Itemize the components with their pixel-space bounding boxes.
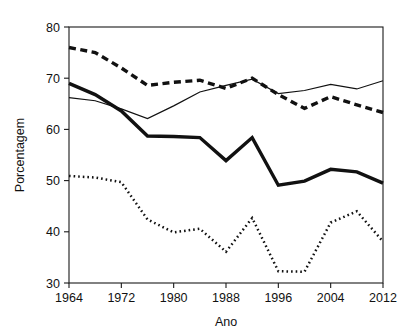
- chart-container: 304050607080 196419721980198819962004201…: [0, 0, 409, 331]
- series-dotted: [69, 176, 383, 272]
- y-tick-label: 50: [46, 174, 60, 188]
- series-thick-dashed: [69, 47, 383, 112]
- x-tick-label: 1980: [160, 291, 188, 305]
- y-tick-label: 60: [46, 123, 60, 137]
- x-tick-label: 2004: [317, 291, 345, 305]
- x-tick-label: 1988: [212, 291, 240, 305]
- line-chart: 304050607080 196419721980198819962004201…: [0, 0, 409, 331]
- series-group: [69, 47, 383, 271]
- y-axis-ticks: 304050607080: [46, 21, 69, 291]
- y-tick-label: 70: [46, 72, 60, 86]
- y-axis-title: Porcentagem: [13, 118, 27, 192]
- y-tick-label: 40: [46, 225, 60, 239]
- y-tick-label: 80: [46, 21, 60, 35]
- x-axis-title: Ano: [215, 315, 237, 329]
- x-tick-label: 1964: [55, 291, 83, 305]
- x-axis-ticks: 1964197219801988199620042012: [55, 283, 397, 305]
- x-tick-label: 1996: [264, 291, 292, 305]
- x-tick-label: 1972: [107, 291, 135, 305]
- y-tick-label: 30: [46, 277, 60, 291]
- x-tick-label: 2012: [369, 291, 397, 305]
